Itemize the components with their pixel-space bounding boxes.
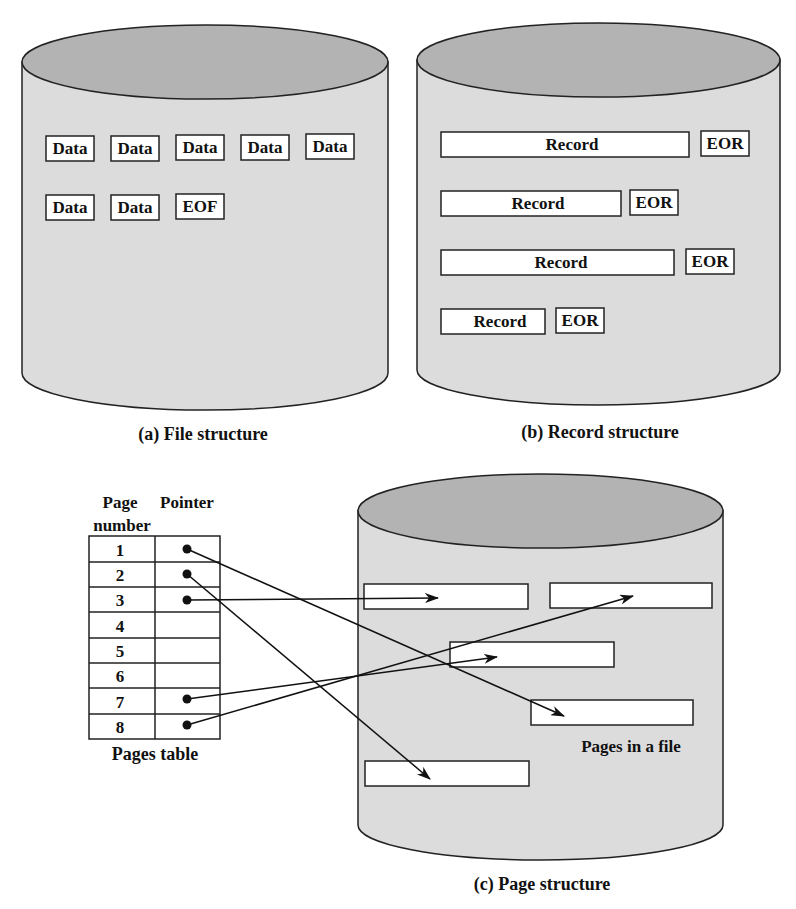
data-row-1: Data Data Data Data Data xyxy=(46,134,354,161)
data-block: Data xyxy=(176,135,224,160)
eor-label: EOR xyxy=(562,311,600,330)
record-label: Record xyxy=(546,135,599,154)
record-row: Record EOR xyxy=(441,131,749,157)
data-block: Data xyxy=(111,195,159,220)
caption-pages-table: Pages table xyxy=(112,744,198,764)
page-number: 2 xyxy=(116,566,125,585)
eor-label: EOR xyxy=(707,134,745,153)
record-row: Record EOR xyxy=(441,190,678,216)
data-row-2: Data Data EOF xyxy=(46,194,224,220)
data-label: Data xyxy=(53,139,88,158)
panel-page-structure: Pages in a file Page number Pointer 1 2 … xyxy=(89,474,723,895)
pointer-dot xyxy=(183,596,192,605)
data-label: Data xyxy=(313,137,348,156)
data-label: Data xyxy=(118,139,153,158)
data-block: Data xyxy=(306,134,354,159)
page-number: 5 xyxy=(116,642,125,661)
record-row: Record EOR xyxy=(441,249,734,275)
data-label: Data xyxy=(248,138,283,157)
data-label: Data xyxy=(183,138,218,157)
page-number: 4 xyxy=(116,617,125,636)
eor-label: EOR xyxy=(636,193,674,212)
page-number: 8 xyxy=(116,718,125,737)
data-label: Data xyxy=(118,198,153,217)
eof-block: EOF xyxy=(176,194,224,219)
pages-in-file-label: Pages in a file xyxy=(581,737,681,756)
header-pointer: Pointer xyxy=(160,493,214,512)
eor-label: EOR xyxy=(692,252,730,271)
panel-file-structure: Data Data Data Data Data Data xyxy=(22,25,388,445)
file-page-block xyxy=(550,583,712,608)
pointer-dot xyxy=(183,695,192,704)
record-row: Record EOR xyxy=(441,308,604,334)
record-label: Record xyxy=(474,312,527,331)
record-label: Record xyxy=(512,194,565,213)
pages-table: Page number Pointer 1 2 3 4 5 6 7 8 Page… xyxy=(89,493,220,764)
file-page-block xyxy=(364,584,528,609)
page-number: 3 xyxy=(116,591,125,610)
pointer-dot xyxy=(183,570,192,579)
eof-label: EOF xyxy=(183,197,218,216)
record-label: Record xyxy=(535,253,588,272)
caption-record-structure: (b) Record structure xyxy=(521,422,679,443)
panel-record-structure: Record EOR Record EOR Record EOR Record … xyxy=(417,23,780,443)
file-page-block xyxy=(450,642,614,667)
page-number: 6 xyxy=(116,667,125,686)
data-label: Data xyxy=(53,198,88,217)
page-number: 7 xyxy=(116,693,125,712)
header-number: number xyxy=(93,516,151,535)
data-block: Data xyxy=(241,135,289,160)
header-page: Page xyxy=(103,493,138,512)
pointer-dot xyxy=(183,545,192,554)
file-page-block xyxy=(365,761,529,786)
caption-page-structure: (c) Page structure xyxy=(474,874,611,895)
page-number: 1 xyxy=(116,541,125,560)
data-block: Data xyxy=(46,195,94,220)
pointer-dot xyxy=(183,721,192,730)
data-block: Data xyxy=(46,136,94,161)
diagram-canvas: Data Data Data Data Data Data xyxy=(0,0,796,909)
data-block: Data xyxy=(111,136,159,161)
caption-file-structure: (a) File structure xyxy=(138,424,268,445)
